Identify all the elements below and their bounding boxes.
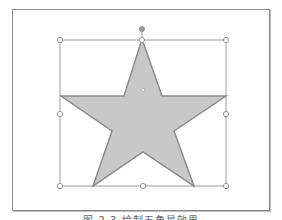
center-point-icon <box>141 88 144 91</box>
resize-handle-middle-right[interactable] <box>223 111 228 116</box>
shape-stage <box>0 0 282 220</box>
resize-handle-top-right[interactable] <box>223 37 228 42</box>
resize-handle-top-left[interactable] <box>57 37 62 42</box>
figure-caption: 图 2.3 绘制五角星效果 <box>0 212 282 220</box>
resize-handle-top-center[interactable] <box>139 37 144 42</box>
resize-handle-bottom-center[interactable] <box>140 183 145 188</box>
resize-handle-bottom-right[interactable] <box>223 183 228 188</box>
resize-handle-bottom-left[interactable] <box>57 183 62 188</box>
star-shape[interactable] <box>61 39 226 186</box>
resize-handle-middle-left[interactable] <box>57 111 62 116</box>
rotation-handle[interactable] <box>140 27 145 32</box>
